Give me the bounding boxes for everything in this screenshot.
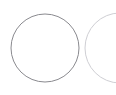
background-rect [0, 0, 116, 95]
figure-canvas [0, 0, 116, 95]
venn-diagram [0, 0, 116, 95]
